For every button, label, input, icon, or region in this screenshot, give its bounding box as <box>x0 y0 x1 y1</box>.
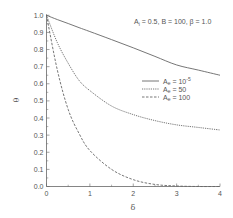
annotation: Ai = 0.5, B = 100, β = 1.0 <box>134 18 211 27</box>
y-tick-label: 0.5 <box>34 97 44 104</box>
y-tick-label: 0.8 <box>34 46 44 53</box>
series-line-2 <box>47 15 221 130</box>
x-tick-label: 1 <box>88 190 92 197</box>
y-axis-label: θ <box>12 97 21 102</box>
y-tick-label: 0.1 <box>34 166 44 173</box>
axes: 012340.00.10.20.30.40.50.60.70.80.91.0 <box>34 12 222 197</box>
y-tick-label: 0.7 <box>34 63 44 70</box>
y-tick-label: 0.3 <box>34 132 44 139</box>
y-tick-label: 0.4 <box>34 115 44 122</box>
line-chart: 012340.00.10.20.30.40.50.60.70.80.91.0 A… <box>0 0 233 218</box>
x-tick-label: 0 <box>45 190 49 197</box>
x-axis-label: δ <box>131 203 136 212</box>
x-tick-label: 4 <box>218 190 222 197</box>
curves <box>47 15 221 186</box>
legend-label: Ae = 10-5 <box>163 76 191 86</box>
legend-label: Ae = 100 <box>163 94 190 103</box>
y-tick-label: 0.6 <box>34 80 44 87</box>
series-line-3 <box>47 15 221 186</box>
y-tick-label: 0.9 <box>34 29 44 36</box>
x-tick-label: 2 <box>131 190 135 197</box>
y-tick-label: 0.0 <box>34 183 44 190</box>
x-tick-label: 3 <box>175 190 179 197</box>
legend: Ae = 10-5Ae = 50Ae = 100 <box>142 76 191 102</box>
y-tick-label: 0.2 <box>34 149 44 156</box>
y-tick-label: 1.0 <box>34 12 44 19</box>
